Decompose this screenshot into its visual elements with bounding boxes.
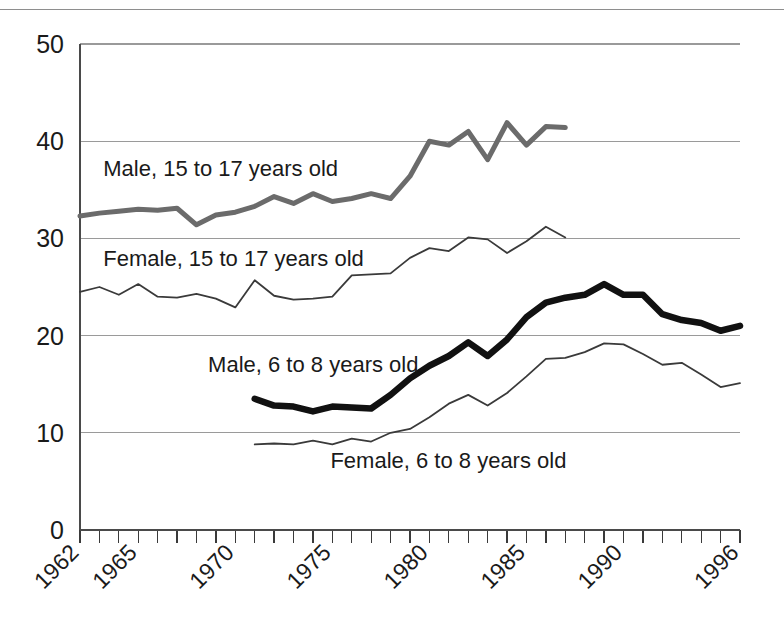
chart-svg: 01020304050 1962196519701975198019851990… xyxy=(0,0,784,637)
x-axis-tickmarks xyxy=(80,530,740,543)
line-chart: 01020304050 1962196519701975198019851990… xyxy=(0,0,784,637)
y-axis-tick-labels: 01020304050 xyxy=(36,30,64,544)
x-axis-tick-label: 1990 xyxy=(572,539,627,594)
x-axis-tick-label: 1996 xyxy=(689,539,744,594)
x-axis-tick-label: 1985 xyxy=(475,539,530,594)
x-axis-tick-label: 1965 xyxy=(87,539,142,594)
x-axis-tick-label: 1975 xyxy=(281,539,336,594)
series-label-1: Female, 15 to 17 years old xyxy=(103,246,363,271)
y-axis-tick-label: 20 xyxy=(36,322,64,350)
series-label-3: Female, 6 to 8 years old xyxy=(330,448,566,473)
x-axis-tick-label: 1962 xyxy=(29,539,84,594)
series-label-0: Male, 15 to 17 years old xyxy=(103,156,338,181)
y-axis-tick-label: 0 xyxy=(50,516,64,544)
series-line-2 xyxy=(255,284,740,411)
y-axis-tick-label: 40 xyxy=(36,127,64,155)
chart-page: 01020304050 1962196519701975198019851990… xyxy=(0,0,784,637)
y-axis-tick-label: 50 xyxy=(36,30,64,58)
series-inline-labels: Male, 15 to 17 years oldFemale, 15 to 17… xyxy=(103,156,566,473)
y-axis-tick-label: 30 xyxy=(36,224,64,252)
y-axis-tick-label: 10 xyxy=(36,419,64,447)
x-axis-tick-label: 1970 xyxy=(184,539,239,594)
x-axis-tick-labels: 19621965197019751980198519901996 xyxy=(29,539,744,594)
x-axis-tick-label: 1980 xyxy=(378,539,433,594)
series-label-2: Male, 6 to 8 years old xyxy=(208,352,418,377)
